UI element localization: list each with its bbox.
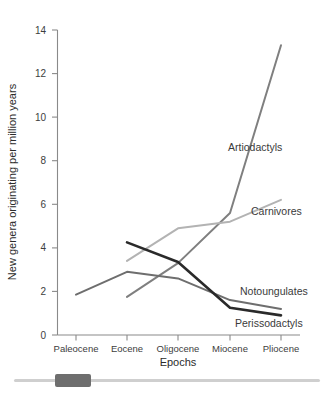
series-label-perissodactyls: Perissodactyls — [235, 317, 303, 329]
horizontal-scrollbar[interactable] — [0, 368, 334, 395]
x-tick-label-eocene: Eocene — [111, 343, 143, 354]
horizontal-scroll-thumb[interactable] — [55, 374, 91, 387]
y-tick-label-2: 2 — [40, 286, 46, 297]
x-axis-title: Epochs — [160, 356, 197, 368]
series-label-carnivores: Carnivores — [251, 205, 302, 217]
x-tick-label-miocene: Miocene — [212, 343, 248, 354]
y-tick-label-8: 8 — [40, 155, 46, 166]
x-tick-label-paleocene: Paleocene — [54, 343, 99, 354]
chart-figure: 0 2 4 6 8 10 12 14 Paleocene Eocene Olig… — [0, 0, 334, 368]
x-tick-label-oligocene: Oligocene — [157, 343, 200, 354]
y-tick-label-10: 10 — [35, 112, 47, 123]
y-tick-label-0: 0 — [40, 330, 46, 341]
x-tick-label-pliocene: Pliocene — [263, 343, 299, 354]
x-axis-ticks — [76, 335, 281, 341]
series-label-notoungulates: Notoungulates — [240, 285, 308, 297]
y-tick-label-14: 14 — [35, 25, 47, 36]
series-line-artiodactyls — [127, 45, 281, 297]
y-tick-label-12: 12 — [35, 68, 47, 79]
y-tick-label-4: 4 — [40, 242, 46, 253]
y-axis-title: New genera originating per million years — [6, 83, 18, 280]
line-chart: 0 2 4 6 8 10 12 14 Paleocene Eocene Olig… — [0, 0, 334, 368]
y-axis-ticks — [52, 30, 58, 335]
y-tick-label-6: 6 — [40, 199, 46, 210]
series-label-artiodactyls: Artiodactyls — [228, 141, 282, 153]
